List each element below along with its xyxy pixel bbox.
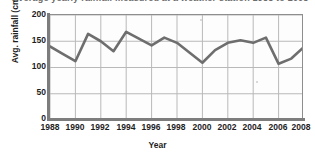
gridlines (50, 15, 303, 119)
x-tick-label-1996: 1996 (142, 122, 161, 132)
rainfall-line-chart-figure: Average yearly rainfall measured at a we… (0, 0, 315, 159)
x-tick-label-2008: 2008 (292, 122, 311, 132)
x-tick-label-2006: 2006 (269, 122, 288, 132)
x-tick-label-2002: 2002 (218, 122, 237, 132)
y-axis-line (47, 13, 50, 121)
x-tick-label-1992: 1992 (91, 122, 110, 132)
x-tick-label-1988: 1988 (41, 122, 60, 132)
scan-speckle (200, 19, 202, 21)
y-tick-label-150: 150 (18, 36, 46, 44)
scan-speckle (256, 81, 258, 83)
y-tick-label-200: 200 (18, 10, 46, 18)
y-tick-label-group: 200 150 100 50 0 (16, 0, 46, 159)
x-tick-label-1990: 1990 (66, 122, 85, 132)
x-tick-label-1998: 1998 (167, 122, 186, 132)
y-tick-label-0: 0 (18, 114, 46, 122)
y-tick-label-100: 100 (18, 62, 46, 70)
x-axis-line (47, 118, 305, 121)
chart-title-text: Average yearly rainfall measured at a we… (12, 0, 309, 3)
x-tick-label-1994: 1994 (117, 122, 136, 132)
x-tick-label-2004: 2004 (243, 122, 262, 132)
plot-svg (50, 15, 303, 119)
chart-title-cropped: Average yearly rainfall measured at a we… (0, 0, 315, 6)
x-axis-title: Year (0, 140, 315, 150)
plot-area (49, 14, 303, 119)
y-tick-label-50: 50 (18, 88, 46, 96)
x-tick-label-2000: 2000 (193, 122, 212, 132)
